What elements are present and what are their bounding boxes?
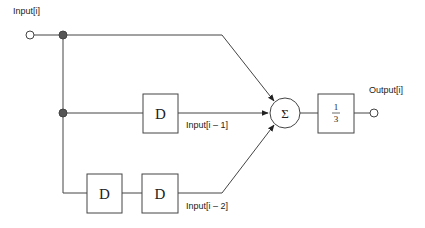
output-label: Output[i] [369, 85, 403, 95]
junction-node-icon [59, 109, 67, 117]
direct-path-arrow [222, 35, 274, 101]
sigma-icon: Σ [281, 106, 289, 121]
gain-denominator: 3 [334, 114, 339, 124]
input-terminal-icon [26, 31, 34, 39]
tap1-label: Input[i – 1] [186, 120, 228, 130]
output-terminal-icon [370, 109, 378, 117]
tap2-arrow [222, 125, 274, 193]
delay-symbol: D [155, 186, 166, 202]
block-diagram: D D D Σ 1 3 Input[i] Output[i] Input[i –… [0, 0, 425, 228]
junction-node-icon [59, 31, 67, 39]
delay-symbol: D [155, 106, 166, 122]
tap2-label: Input[i – 2] [186, 201, 228, 211]
input-label: Input[i] [13, 6, 40, 16]
gain-numerator: 1 [334, 102, 339, 112]
delay-symbol: D [99, 186, 110, 202]
